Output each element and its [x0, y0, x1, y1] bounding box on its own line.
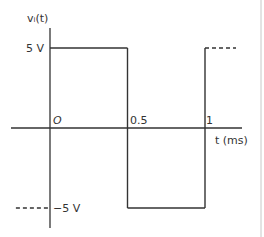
y-axis-label: vᵢ(t): [27, 12, 48, 25]
square-wave-diagram: vᵢ(t) 5 V −5 V O 0.5 1 t (ms): [0, 0, 264, 237]
tick-label-0-5: 0.5: [130, 114, 148, 127]
tick-label-5v: 5 V: [26, 42, 44, 55]
tick-label-1: 1: [206, 114, 213, 127]
tick-label-neg-5v: −5 V: [53, 202, 81, 215]
x-axis-label: t (ms): [215, 134, 248, 147]
tick-label-0: O: [53, 114, 62, 127]
